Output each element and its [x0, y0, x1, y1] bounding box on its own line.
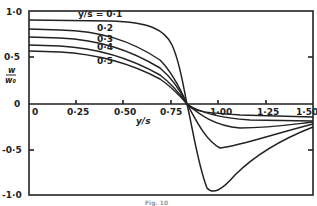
y-tick-label: -1·0: [2, 190, 22, 200]
legend-label: 0·2: [97, 23, 113, 33]
x-tick-label: 0·25: [67, 107, 89, 117]
y-tick-label: 0·5: [4, 52, 20, 62]
svg-text:w: w: [8, 66, 16, 75]
x-tick-label: 0: [32, 107, 38, 117]
legend-label: 0·4: [97, 42, 113, 52]
figure-caption: Fig. 10: [145, 199, 168, 206]
series-curves: [29, 20, 313, 191]
curve-0-4: [29, 45, 313, 148]
svg-text:w₀: w₀: [5, 76, 16, 85]
y-tick-label: -0·5: [2, 145, 22, 155]
chart: 0 0·25 0·50 0·75 1·00 1·25 1·50 1·0 0·5 …: [0, 0, 317, 206]
x-axis-label: y/s: [136, 116, 151, 126]
curve-labels: y/s = 0·1 0·2 0·3 0·4 0·5: [78, 9, 122, 66]
legend-label: 0·5: [97, 56, 113, 66]
y-axis-label: w w₀: [5, 66, 16, 85]
x-tick-label: 1·50: [296, 107, 317, 117]
y-tick-label: 0: [14, 99, 20, 109]
legend-label: y/s = 0·1: [78, 9, 122, 19]
x-tick-label: 0·50: [114, 107, 136, 117]
x-tick-label: 0·75: [160, 107, 182, 117]
y-tick-label: 1·0: [6, 7, 22, 17]
